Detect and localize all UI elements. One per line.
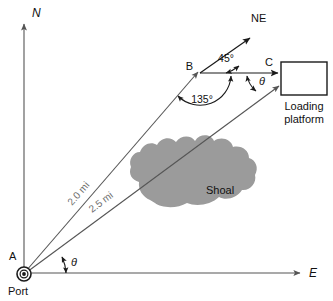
point-a-label: A: [9, 250, 17, 262]
north-axis-label: N: [32, 6, 41, 20]
point-c-label: C: [265, 56, 273, 68]
loading-platform-box: [281, 62, 327, 95]
loading-platform-label-line1: Loading: [284, 100, 323, 112]
angle-theta-at-a: θ: [62, 256, 77, 273]
port-target-icon: [17, 267, 31, 281]
northeast-label: NE: [251, 12, 266, 24]
port-center-dot: [22, 272, 26, 276]
angle-45-at-b: 45°: [218, 52, 239, 73]
diagram-canvas: N E Shoal 2.0 mi 2.5 mi NE: [0, 0, 333, 301]
angle-45-arc: [226, 66, 239, 73]
angle-135-label: 135°: [191, 93, 213, 105]
angle-theta-at-c: θ: [247, 75, 265, 91]
angle-135-at-b: 135°: [178, 76, 231, 105]
angle-theta-a-arc: [62, 257, 66, 273]
angle-theta-c-arc: [247, 76, 256, 91]
point-b-label: B: [186, 60, 193, 72]
loading-platform: Loading platform: [281, 62, 327, 125]
angle-theta-c-label: θ: [259, 75, 265, 87]
shoal-label: Shoal: [206, 184, 234, 196]
distance-ab-label: 2.0 mi: [65, 180, 91, 208]
axis-east: E: [24, 266, 318, 280]
shoal-shape: [130, 135, 257, 207]
shoal-region: Shoal: [130, 135, 257, 207]
navigation-diagram: N E Shoal 2.0 mi 2.5 mi NE: [0, 0, 333, 301]
east-axis-label: E: [309, 266, 318, 280]
angle-theta-a-label: θ: [71, 256, 77, 268]
axis-north: N: [24, 6, 41, 273]
loading-platform-label-line2: platform: [284, 113, 324, 125]
angle-45-label: 45°: [218, 52, 234, 64]
port-caption: Port: [8, 285, 28, 297]
